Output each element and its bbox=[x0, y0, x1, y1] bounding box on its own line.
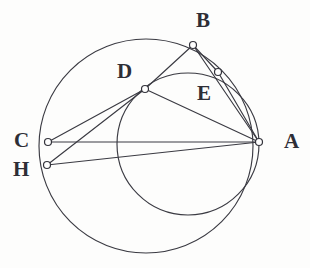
vertices-group bbox=[44, 42, 263, 169]
segment-c-d bbox=[48, 89, 145, 142]
geometry-canvas bbox=[0, 0, 310, 268]
vertex-point-b bbox=[190, 42, 197, 49]
vertex-point-e bbox=[215, 69, 222, 76]
point-label-h: H bbox=[13, 159, 30, 180]
segment-h-a bbox=[47, 142, 259, 165]
point-label-d: D bbox=[117, 61, 132, 82]
vertex-point-a bbox=[256, 139, 263, 146]
segment-e-a bbox=[218, 72, 259, 142]
vertex-point-h bbox=[44, 162, 51, 169]
geometry-figure: B D E A C H bbox=[0, 0, 310, 268]
vertex-point-c bbox=[45, 139, 52, 146]
segment-b-e bbox=[193, 45, 218, 72]
point-label-a: A bbox=[284, 131, 299, 152]
point-label-b: B bbox=[196, 10, 210, 31]
point-label-e: E bbox=[197, 83, 211, 104]
segment-d-b bbox=[145, 45, 193, 89]
point-label-c: C bbox=[14, 130, 29, 151]
vertex-point-d bbox=[142, 86, 149, 93]
segment-h-d bbox=[47, 89, 145, 165]
